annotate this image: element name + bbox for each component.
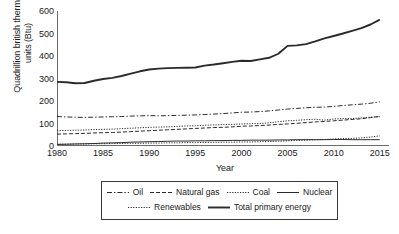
legend-item-renewables[interactable]: Renewables [128,203,201,212]
chart-legend: OilNatural gasCoalNuclearRenewablesTotal… [101,181,338,220]
chart-figure: Quadrillion british thermal units (Btu) … [0,0,399,234]
legend-swatch-dot-icon [128,204,150,211]
x-tick-label: 2015 [360,148,399,158]
y-tick-label: 500 [28,29,54,39]
legend-label: Coal [253,188,270,197]
y-tick-label: 400 [28,51,54,61]
legend-swatch-solid-thick-icon [208,204,230,211]
x-axis-tick-labels: 19801985199019952000200520102015 [57,148,389,162]
legend-label: Natural gas [176,188,219,197]
legend-label: Oil [133,188,143,197]
series-line-coal [57,117,380,131]
series-line-oil [57,102,380,118]
y-tick-label: 100 [28,119,54,129]
legend-swatch-dash-dot-icon [107,189,129,196]
legend-item-nuclear[interactable]: Nuclear [277,188,332,197]
series-line-total-primary-energy [57,20,380,84]
y-axis-tick-labels: 0100200300400500600 [26,11,54,146]
plot-svg [57,11,389,146]
legend-item-coal[interactable]: Coal [227,188,270,197]
y-tick-label: 200 [28,96,54,106]
y-tick-label: 600 [28,6,54,16]
legend-row: OilNatural gasCoalNuclear [106,185,333,200]
legend-swatch-dot-icon [227,189,249,196]
x-tick-label: 1990 [129,148,169,158]
legend-swatch-dash-icon [150,189,172,196]
legend-label: Nuclear [303,188,332,197]
legend-item-total-primary-energy[interactable]: Total primary energy [208,203,311,212]
legend-label: Total primary energy [234,203,311,212]
legend-swatch-solid-icon [277,189,299,196]
x-axis-title: Year [55,163,395,173]
x-tick-label: 2000 [221,148,261,158]
x-tick-label: 1985 [83,148,123,158]
x-tick-label: 1980 [37,148,77,158]
x-tick-label: 1995 [175,148,215,158]
x-tick-label: 2005 [268,148,308,158]
x-tick-label: 2010 [314,148,354,158]
legend-label: Renewables [154,203,201,212]
legend-item-oil[interactable]: Oil [107,188,143,197]
legend-row: RenewablesTotal primary energy [106,200,333,215]
y-tick-label: 300 [28,74,54,84]
plot-area [57,11,389,146]
legend-item-natural-gas[interactable]: Natural gas [150,188,219,197]
